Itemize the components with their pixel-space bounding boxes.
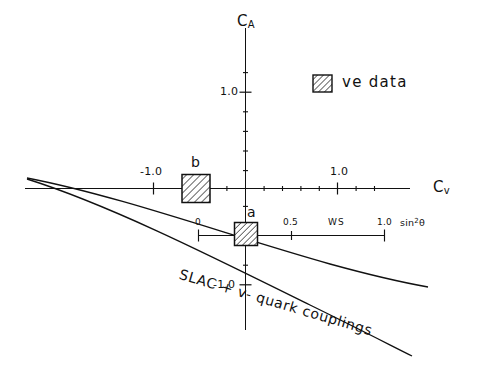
scale-tick-label-one: 1.0 [377,218,392,227]
x-axis-label-subscript: v [444,185,450,196]
scale-tick-label-half: 0.5 [283,218,298,227]
x-axis-label: Cv [433,180,450,196]
scale-axis-label: sin2θ [400,218,425,228]
x-tick-label-positive-one: 1.0 [330,166,348,177]
region-box-b[interactable] [182,175,210,203]
scale-marker-ws: WS [328,218,345,227]
y-tick-label-positive-one: 1.0 [220,86,238,97]
x-axis-label-main: C [433,178,444,196]
scale-axis-label-main: sin [400,217,414,228]
legend-label: ve data [342,75,408,90]
x-tick-label-negative-one: -1.0 [140,166,162,177]
legend-swatch-hatched-square [313,75,332,92]
slac-band-upper-line [27,178,428,287]
region-box-a[interactable] [235,223,258,246]
scale-axis-label-theta: θ [419,217,425,228]
region-b-label: b [191,155,200,169]
y-axis-label-main: C [237,12,248,30]
y-axis-label-subscript: A [248,19,255,30]
plot-canvas [0,0,482,371]
y-axis-label: CA [237,14,255,30]
scale-tick-label-zero: 0 [195,218,201,227]
coupling-plot-figure: CA Cv 1.0 -1.0 -1.0 1.0 ve data b a 0 0.… [0,0,482,371]
region-a-label: a [247,205,256,219]
sin2theta-scale-bar [198,230,385,242]
